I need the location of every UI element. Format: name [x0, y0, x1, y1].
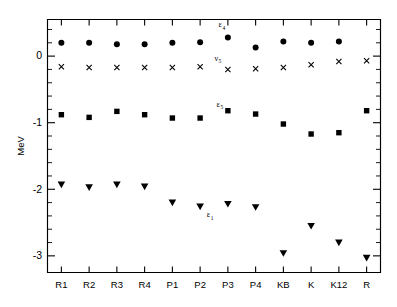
data-point-square	[114, 109, 119, 114]
data-point-triangle-down	[307, 223, 315, 230]
data-point-square	[364, 108, 369, 113]
y-tick-labels: 0-1-2-3	[33, 49, 43, 261]
data-point-triangle-down	[141, 184, 149, 191]
data-point-x	[336, 59, 341, 64]
data-point-x	[364, 58, 369, 63]
data-point-x	[142, 65, 147, 70]
data-point-x	[281, 65, 286, 70]
x-tick-label-r2: R2	[83, 279, 95, 290]
data-point-square	[86, 115, 91, 120]
y-axis-title: MeV	[15, 136, 26, 156]
data-point-square	[253, 111, 258, 116]
x-tick-labels: R1R2R3R4P1P2P3P4KBKK12R	[55, 279, 370, 290]
x-tick-label-p1: P1	[167, 279, 179, 290]
y-axis-title-text: MeV	[15, 136, 26, 156]
series-filled-triangle-down	[58, 182, 371, 262]
y-tick-label: 0	[36, 49, 42, 61]
data-point-triangle-down	[280, 250, 288, 257]
data-point-square	[225, 108, 230, 113]
x-tick-label-p3: P3	[222, 279, 234, 290]
data-point-square	[308, 131, 313, 136]
data-point-circle	[336, 38, 342, 44]
annot-eps-4: ε4	[219, 20, 226, 31]
annot-eps-5-subscript: 5	[220, 104, 223, 110]
data-point-x	[198, 64, 203, 69]
data-point-x	[225, 67, 230, 72]
data-point-square	[170, 115, 175, 120]
data-point-square	[197, 115, 202, 120]
annot-eps-1: ε1	[207, 210, 214, 221]
data-point-circle	[114, 41, 120, 47]
y-tick-label: -3	[33, 249, 42, 261]
annot-eps-5: ε5	[217, 100, 224, 111]
x-tick-label-k12: K12	[330, 279, 347, 290]
data-point-triangle-down	[113, 182, 121, 189]
data-point-triangle-down	[85, 184, 93, 191]
annot-nu-5-subscript: 5	[219, 58, 222, 64]
data-point-x	[170, 65, 175, 70]
chart-figure: 0-1-2-3 R1R2R3R4P1P2P3P4KBKK12R MeV ε4ν5…	[0, 0, 397, 307]
data-point-square	[59, 112, 64, 117]
data-point-circle	[197, 39, 203, 45]
data-point-circle	[169, 40, 175, 46]
data-point-circle	[86, 40, 92, 46]
data-point-triangle-down	[58, 182, 66, 189]
data-point-x	[59, 64, 64, 69]
data-point-circle	[253, 44, 259, 50]
data-point-triangle-down	[169, 200, 177, 207]
data-point-circle	[308, 40, 314, 46]
x-tick-label-r1: R1	[55, 279, 67, 290]
data-point-circle	[280, 38, 286, 44]
series-filled-square	[59, 108, 370, 137]
scatter-plot: 0-1-2-3 R1R2R3R4P1P2P3P4KBKK12R MeV ε4ν5…	[0, 0, 397, 307]
data-point-triangle-down	[252, 204, 260, 211]
x-tick-label-p4: P4	[250, 279, 262, 290]
data-point-circle	[225, 34, 231, 40]
data-point-x	[87, 65, 92, 70]
annot-nu-5: ν5	[214, 54, 221, 65]
data-series	[58, 34, 371, 261]
data-point-triangle-down	[196, 204, 204, 211]
x-tick-label-r4: R4	[139, 279, 151, 290]
data-point-x	[309, 62, 314, 67]
annot-eps-4-subscript: 4	[222, 25, 225, 31]
series-filled-circle	[58, 34, 342, 50]
data-point-circle	[58, 40, 64, 46]
data-point-x	[114, 65, 119, 70]
x-tick-label-r3: R3	[111, 279, 123, 290]
y-tick-label: -2	[33, 183, 42, 195]
x-tick-label-p2: P2	[194, 279, 206, 290]
x-tick-label-k: K	[308, 279, 315, 290]
x-tick-label-r: R	[363, 279, 370, 290]
data-point-square	[281, 121, 286, 126]
data-point-square	[336, 130, 341, 135]
plot-annotations: ε4ν5ε5ε1	[207, 20, 226, 220]
data-point-triangle-down	[363, 255, 371, 262]
data-point-square	[142, 112, 147, 117]
data-point-x	[253, 66, 258, 71]
data-point-triangle-down	[335, 240, 343, 247]
data-point-triangle-down	[224, 201, 232, 208]
x-tick-label-kb: KB	[277, 279, 290, 290]
y-tick-label: -1	[33, 116, 42, 128]
data-point-circle	[142, 41, 148, 47]
annot-eps-1-subscript: 1	[211, 215, 214, 221]
